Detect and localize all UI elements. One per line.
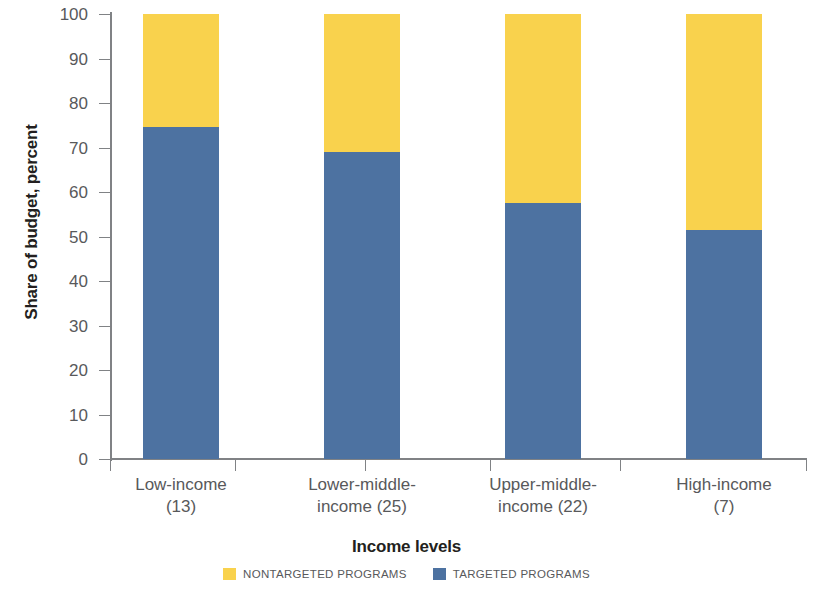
x-axis-title: Income levels	[0, 537, 813, 557]
bar-segment-targeted	[505, 203, 581, 459]
x-axis-tick-mark	[620, 459, 621, 471]
x-axis-category-label-line: income (22)	[453, 496, 633, 518]
y-axis-title: Share of budget, percent	[22, 92, 42, 352]
legend-item[interactable]: NONTARGETED PROGRAMS	[223, 568, 407, 580]
legend-swatch-icon	[223, 568, 236, 580]
bar-group	[324, 14, 400, 459]
legend-label: NONTARGETED PROGRAMS	[243, 568, 407, 580]
bar-group	[505, 14, 581, 459]
x-axis-category-label-line: income (25)	[272, 496, 452, 518]
y-axis-tick-label: 70	[50, 148, 88, 149]
bar-group	[686, 14, 762, 459]
plot-area	[110, 14, 805, 459]
x-axis-category-label-line: Lower-middle-	[272, 474, 452, 496]
y-axis-tick-label: 60	[50, 192, 88, 193]
bar-segment-targeted	[324, 152, 400, 459]
bar-group	[143, 14, 219, 459]
x-axis-category-label-line: (7)	[634, 496, 813, 518]
x-axis-tick-mark	[806, 459, 807, 471]
x-axis-tick-mark	[110, 459, 111, 471]
chart-legend: NONTARGETED PROGRAMSTARGETED PROGRAMS	[0, 568, 813, 580]
legend-swatch-icon	[433, 568, 446, 580]
x-axis-category-label-line: (13)	[91, 496, 271, 518]
y-axis-tick-label: 100	[50, 14, 88, 15]
x-axis-tick-mark	[365, 459, 366, 471]
y-axis-tick-label: 40	[50, 281, 88, 282]
x-axis-category-label: Lower-middle-income (25)	[272, 474, 452, 519]
bar-segment-targeted	[143, 127, 219, 459]
legend-item[interactable]: TARGETED PROGRAMS	[433, 568, 590, 580]
stacked-bar-chart: Share of budget, percent 100908070605040…	[0, 0, 813, 592]
bar-segment-nontargeted	[686, 14, 762, 230]
x-axis-category-label-line: Upper-middle-	[453, 474, 633, 496]
bar-segment-nontargeted	[143, 14, 219, 127]
y-axis-tick-label: 0	[50, 459, 88, 460]
y-axis-tick-label: 30	[50, 326, 88, 327]
y-axis-tick-label: 80	[50, 103, 88, 104]
y-axis-tick-label: 20	[50, 370, 88, 371]
y-axis-tick-label: 10	[50, 415, 88, 416]
x-axis-tick-mark	[235, 459, 236, 471]
bar-segment-nontargeted	[505, 14, 581, 203]
y-axis-tick-label: 90	[50, 59, 88, 60]
y-axis-tick-label: 50	[50, 237, 88, 238]
bar-segment-targeted	[686, 230, 762, 459]
x-axis-tick-mark	[490, 459, 491, 471]
x-axis-category-label: Upper-middle-income (22)	[453, 474, 633, 519]
x-axis-category-label-line: Low-income	[91, 474, 271, 496]
x-axis-category-label-line: High-income	[634, 474, 813, 496]
legend-label: TARGETED PROGRAMS	[453, 568, 590, 580]
x-axis-category-label: High-income(7)	[634, 474, 813, 519]
x-axis-category-label: Low-income(13)	[91, 474, 271, 519]
bar-segment-nontargeted	[324, 14, 400, 152]
